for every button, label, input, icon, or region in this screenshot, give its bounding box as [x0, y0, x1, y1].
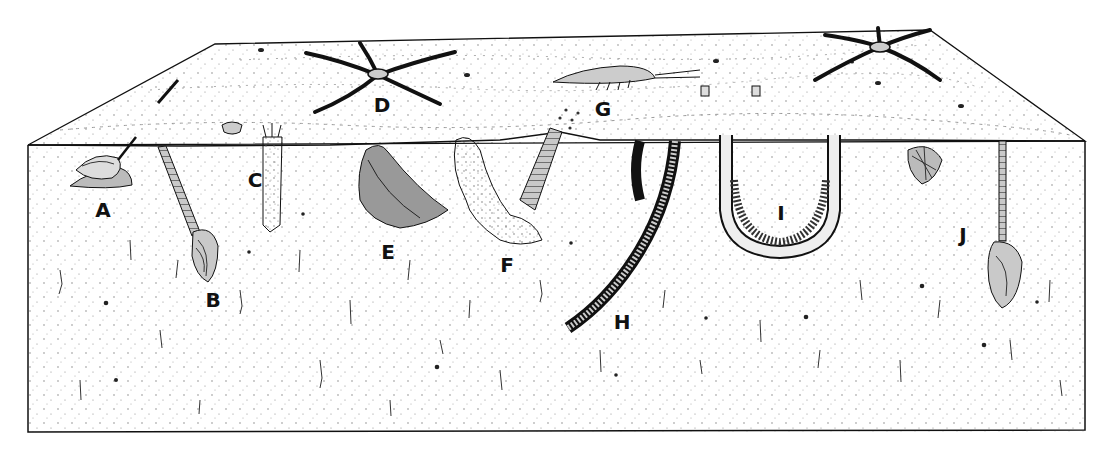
label-b: B [205, 290, 220, 310]
label-d: D [374, 95, 391, 115]
sediment-block-diagram: A B C D E F G H I J [0, 0, 1113, 452]
label-f: F [500, 255, 514, 275]
label-i: I [777, 203, 784, 223]
label-c: C [248, 170, 263, 190]
label-e: E [381, 242, 395, 262]
label-j: J [959, 225, 966, 245]
sediment-surface [28, 30, 1085, 145]
label-h: H [614, 312, 631, 332]
label-g: G [595, 99, 611, 119]
label-a: A [95, 200, 110, 220]
